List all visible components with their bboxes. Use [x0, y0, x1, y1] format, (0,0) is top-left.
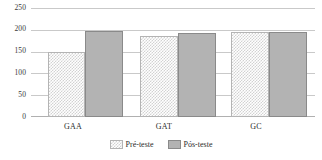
plot-area [31, 8, 315, 117]
x-axis-label-gc: GC [217, 122, 295, 132]
y-tick-label-0: 0 [0, 113, 26, 121]
legend-label-pos-teste: Pós-teste [184, 140, 213, 149]
y-tick-label-100: 100 [0, 69, 26, 77]
bar-group-gaa [48, 8, 123, 117]
bar-gc-pos-teste [269, 32, 307, 117]
bar-gc-pre-teste [231, 32, 269, 117]
legend-label-pre-teste: Pré-teste [126, 140, 154, 149]
legend-item-pre-teste: Pré-teste [110, 140, 154, 149]
y-tick-label-200: 200 [0, 25, 26, 33]
bar-group-gat [140, 8, 216, 117]
bar-gat-pos-teste [178, 33, 216, 117]
y-tick-label-50: 50 [0, 91, 26, 99]
x-axis-label-gaa: GAA [34, 122, 112, 132]
pattern-checker-swatch-icon [110, 140, 123, 149]
chart-legend: Pré-teste Pós-teste [0, 140, 322, 149]
x-axis-label-gat: GAT [125, 122, 203, 132]
bar-group-gc [231, 8, 307, 117]
bar-gaa-pos-teste [85, 31, 123, 117]
y-tick-label-250: 250 [0, 4, 26, 12]
bar-gat-pre-teste [140, 36, 178, 117]
legend-item-pos-teste: Pós-teste [168, 140, 213, 149]
y-tick-label-150: 150 [0, 47, 26, 55]
solid-gray-swatch-icon [168, 140, 181, 149]
bar-gaa-pre-teste [48, 52, 85, 117]
bar-chart: 250 200 150 100 50 0 GAA GAT GC [0, 0, 322, 160]
